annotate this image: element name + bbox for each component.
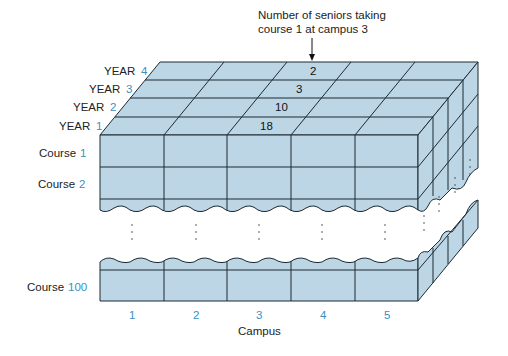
- svg-text:2: 2: [79, 178, 85, 190]
- cube-front-face-lower: [100, 258, 418, 301]
- campus-tick-5: 5: [384, 309, 390, 321]
- cell-value-year1: 18: [260, 120, 273, 132]
- cell-value-year3: 3: [296, 83, 302, 95]
- annotation-line-2: course 1 at campus 3: [258, 23, 368, 35]
- svg-text:100: 100: [68, 281, 87, 293]
- campus-tick-1: 1: [129, 309, 135, 321]
- svg-text:YEAR: YEAR: [89, 83, 120, 95]
- campus-tick-2: 2: [193, 309, 199, 321]
- svg-text:YEAR: YEAR: [104, 65, 135, 77]
- data-cube-diagram: Number of seniors taking course 1 at cam…: [0, 0, 508, 356]
- cell-value-year4: 2: [310, 65, 316, 77]
- svg-text:YEAR: YEAR: [59, 120, 90, 132]
- svg-text:Course: Course: [38, 178, 75, 190]
- svg-text:2: 2: [110, 101, 116, 113]
- campus-axis-label: Campus: [238, 325, 281, 337]
- svg-text:1: 1: [96, 120, 102, 132]
- year-label-4: YEAR 4: [104, 65, 148, 77]
- svg-text:Course: Course: [27, 281, 64, 293]
- annotation-line-1: Number of seniors taking: [258, 9, 386, 21]
- cell-value-year2: 10: [275, 101, 288, 113]
- course-label-1: Course 1: [39, 147, 86, 159]
- course-label-2: Course 2: [38, 178, 85, 190]
- course-label-100: Course 100: [27, 281, 87, 293]
- cube-front-face-upper: [100, 135, 418, 212]
- svg-text:1: 1: [80, 147, 86, 159]
- year-label-2: YEAR 2: [73, 101, 116, 113]
- svg-text:YEAR: YEAR: [73, 101, 104, 113]
- campus-tick-4: 4: [320, 309, 327, 321]
- year-label-3: YEAR 3: [89, 83, 132, 95]
- year-label-1: YEAR 1: [59, 120, 102, 132]
- svg-text:Course: Course: [39, 147, 76, 159]
- svg-text:3: 3: [126, 83, 132, 95]
- svg-text:4: 4: [141, 65, 148, 77]
- campus-tick-3: 3: [256, 309, 262, 321]
- arrow-head-icon: [309, 54, 315, 61]
